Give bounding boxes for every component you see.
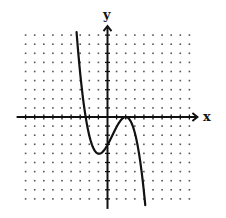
grid-dot xyxy=(125,198,127,200)
grid-dot xyxy=(189,153,191,155)
grid-dot xyxy=(180,71,182,73)
grid-dot xyxy=(189,89,191,91)
grid-dot xyxy=(134,171,136,173)
grid-dot xyxy=(143,34,145,36)
grid-dot xyxy=(61,89,63,91)
grid-dot xyxy=(116,98,118,100)
grid-dot xyxy=(89,144,91,146)
grid-dot xyxy=(161,162,163,164)
grid-dot xyxy=(125,144,127,146)
polynomial-graph: x y xyxy=(0,0,226,218)
grid-dot xyxy=(152,180,154,182)
grid-dot xyxy=(134,80,136,82)
grid-dot xyxy=(34,144,36,146)
grid-dot xyxy=(25,62,27,64)
grid-dot xyxy=(152,80,154,82)
grid-dot xyxy=(61,98,63,100)
grid-dot xyxy=(152,43,154,45)
grid-dot xyxy=(152,71,154,73)
grid-dot xyxy=(134,198,136,200)
grid-dot xyxy=(134,180,136,182)
grid-dot xyxy=(125,71,127,73)
grid-dot xyxy=(189,180,191,182)
grid-dot xyxy=(134,125,136,127)
grid-dot xyxy=(125,34,127,36)
grid-dot xyxy=(125,89,127,91)
grid-dot xyxy=(116,71,118,73)
grid-dot xyxy=(170,62,172,64)
grid-dot xyxy=(143,71,145,73)
grid-dot xyxy=(170,43,172,45)
grid-dot xyxy=(43,171,45,173)
grid-dot xyxy=(189,134,191,136)
grid-dot xyxy=(70,107,72,109)
grid-dot xyxy=(180,162,182,164)
grid-dot xyxy=(52,153,54,155)
grid-dot xyxy=(70,71,72,73)
grid-dot xyxy=(152,189,154,191)
grid-dot xyxy=(70,80,72,82)
grid-dot xyxy=(61,43,63,45)
grid-dot xyxy=(143,89,145,91)
grid-dot xyxy=(125,43,127,45)
grid-dot xyxy=(189,53,191,55)
grid-dot xyxy=(170,144,172,146)
grid-dot xyxy=(116,134,118,136)
grid-dot xyxy=(34,89,36,91)
grid-dot xyxy=(152,134,154,136)
grid-dot xyxy=(134,98,136,100)
grid-dot xyxy=(189,144,191,146)
grid-dot xyxy=(52,162,54,164)
grid-dot xyxy=(34,80,36,82)
grid-dot xyxy=(134,43,136,45)
grid-dot xyxy=(52,53,54,55)
grid-dot xyxy=(89,34,91,36)
grid-dot xyxy=(34,53,36,55)
grid-dot xyxy=(143,171,145,173)
grid-dot xyxy=(43,43,45,45)
grid-dot xyxy=(70,198,72,200)
grid-dot xyxy=(180,180,182,182)
grid-dot xyxy=(25,34,27,36)
grid-dot xyxy=(43,80,45,82)
grid-dot xyxy=(125,134,127,136)
grid-dot xyxy=(180,80,182,82)
grid-dot xyxy=(143,134,145,136)
grid-dot xyxy=(52,171,54,173)
grid-dot xyxy=(34,162,36,164)
grid-dot xyxy=(98,162,100,164)
grid-dot xyxy=(189,171,191,173)
grid-dot xyxy=(161,189,163,191)
grid-dot xyxy=(125,171,127,173)
grid-dot xyxy=(98,134,100,136)
grid-dot xyxy=(79,171,81,173)
grid-dot xyxy=(125,189,127,191)
grid-dot xyxy=(25,153,27,155)
grid-dot xyxy=(34,62,36,64)
grid-dot xyxy=(61,107,63,109)
grid-dot xyxy=(125,98,127,100)
grid-dot xyxy=(170,125,172,127)
grid-dot xyxy=(116,171,118,173)
grid-dot xyxy=(134,53,136,55)
grid-dot xyxy=(25,89,27,91)
grid-dot xyxy=(180,53,182,55)
grid-dot xyxy=(79,34,81,36)
grid-dot xyxy=(89,162,91,164)
grid-dot xyxy=(161,125,163,127)
grid-dot xyxy=(152,198,154,200)
grid-dot xyxy=(161,53,163,55)
grid-dot xyxy=(70,89,72,91)
grid-dot xyxy=(161,80,163,82)
y-axis-label: y xyxy=(102,7,111,22)
grid-dot xyxy=(52,89,54,91)
grid-dot xyxy=(34,171,36,173)
grid-dot xyxy=(52,144,54,146)
grid-dot xyxy=(25,98,27,100)
grid-dot xyxy=(52,80,54,82)
grid-dot xyxy=(79,89,81,91)
grid-dot xyxy=(152,171,154,173)
grid-dot xyxy=(61,144,63,146)
grid-dot xyxy=(189,62,191,64)
grid-dot xyxy=(70,144,72,146)
